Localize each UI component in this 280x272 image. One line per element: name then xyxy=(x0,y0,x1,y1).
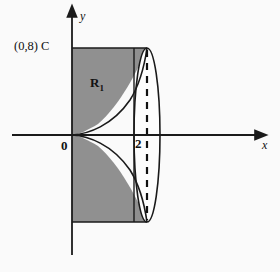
math-figure: (0,8) C R1 0 2 x y xyxy=(0,0,280,272)
point-c-label: (0,8) C xyxy=(14,40,49,53)
x-tick-label-2: 2 xyxy=(135,137,142,150)
origin-label: 0 xyxy=(61,139,68,152)
x-axis-label: x xyxy=(262,139,267,151)
y-axis-label: y xyxy=(80,10,85,22)
region-r1-letter: R xyxy=(90,75,99,90)
region-r1-label: R1 xyxy=(90,76,104,93)
region-r1-subscript: 1 xyxy=(99,83,104,93)
